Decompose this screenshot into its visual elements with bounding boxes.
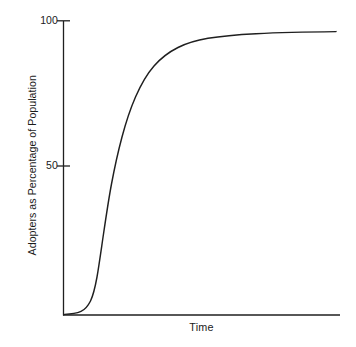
diffusion-s-curve-chart: [0, 0, 356, 347]
figure-root: 100 50 Adopters as Percentage of Populat…: [0, 0, 356, 347]
y-axis-tick-label-100: 100: [34, 15, 58, 26]
chart-background: [0, 0, 356, 347]
y-axis-title: Adopters as Percentage of Population: [27, 50, 38, 280]
x-axis-title: Time: [63, 322, 340, 333]
